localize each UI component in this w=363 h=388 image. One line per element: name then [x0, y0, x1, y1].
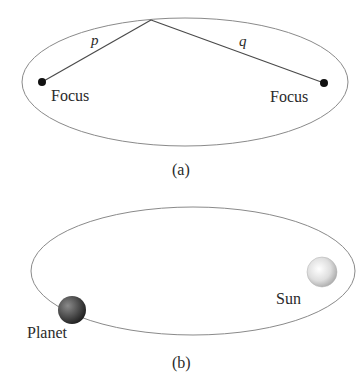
segment-p: [42, 20, 151, 82]
focus-right-label: Focus: [270, 88, 308, 105]
label-q: q: [239, 33, 247, 49]
panel-b: Planet Sun (b): [27, 207, 355, 372]
caption-a: (a): [172, 161, 190, 179]
focus-right-dot: [320, 79, 328, 87]
sun-label: Sun: [276, 290, 301, 307]
kepler-ellipse-diagram: p q Focus Focus (a) Planet Sun (b): [0, 0, 363, 388]
segment-q: [151, 20, 324, 83]
ellipse-a: [22, 18, 348, 146]
caption-b: (b): [172, 354, 191, 372]
focus-left-dot: [38, 78, 46, 86]
planet-label: Planet: [27, 324, 68, 341]
planet-icon: [58, 296, 86, 324]
sun-icon: [307, 257, 337, 287]
label-p: p: [90, 32, 99, 48]
panel-a: p q Focus Focus (a): [22, 18, 348, 179]
focus-left-label: Focus: [51, 87, 89, 104]
